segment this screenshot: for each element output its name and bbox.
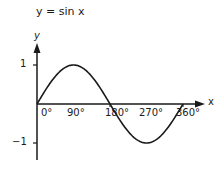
x-tick-90: 90° xyxy=(67,107,85,118)
x-tick-360: 360° xyxy=(176,107,200,118)
x-tick-180: 180° xyxy=(105,107,129,118)
y-tick-neg1: −1 xyxy=(12,136,27,147)
x-tick-0: 0° xyxy=(41,107,52,118)
y-axis-arrow-icon xyxy=(34,43,41,53)
y-tick-1: 1 xyxy=(20,58,26,69)
sine-plot xyxy=(0,0,224,172)
x-tick-270: 270° xyxy=(139,107,163,118)
